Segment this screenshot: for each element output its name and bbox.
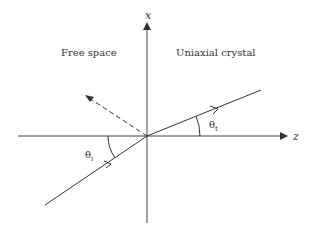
transmitted-angle-arc bbox=[196, 116, 200, 136]
transmitted-angle-sub: t bbox=[215, 125, 218, 133]
transmitted-angle-label: θt bbox=[209, 119, 218, 133]
incident-angle-sub: i bbox=[91, 155, 94, 163]
incident-angle-label: θi bbox=[85, 149, 94, 163]
z-axis-label: z bbox=[292, 130, 299, 143]
region-label-free-space: Free space bbox=[61, 47, 117, 58]
transmitted-ray bbox=[147, 90, 261, 136]
incident-angle-arc bbox=[108, 136, 115, 158]
refraction-diagram: x z Free space Uniaxial crystal θi θt bbox=[0, 0, 313, 236]
region-label-uniaxial-crystal: Uniaxial crystal bbox=[176, 47, 256, 58]
reflected-ray bbox=[89, 98, 147, 136]
z-axis-arrowhead-icon bbox=[280, 132, 288, 140]
x-axis-arrowhead-icon bbox=[143, 22, 151, 30]
incident-ray bbox=[45, 136, 147, 205]
x-axis-label: x bbox=[145, 9, 152, 22]
